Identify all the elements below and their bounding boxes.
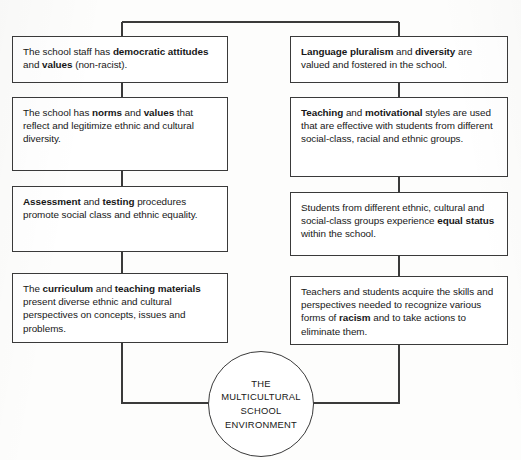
statement-box-left-1: The school staff has democratic attitude… — [12, 36, 228, 83]
center-line-2: MULTICULTURAL — [221, 390, 300, 404]
statement-text: Teachers and students acquire the skills… — [301, 286, 493, 337]
diagram-canvas: The school staff has democratic attitude… — [0, 0, 521, 460]
statement-box-right-4: Teachers and students acquire the skills… — [290, 276, 508, 345]
statement-box-right-1: Language pluralism and diversity are val… — [290, 36, 508, 83]
statement-box-right-3: Students from different ethnic, cultural… — [290, 192, 508, 256]
statement-text: The school staff has democratic attitude… — [23, 46, 208, 70]
statement-text: The curriculum and teaching materials pr… — [23, 283, 201, 334]
statement-text: Assessment and testing procedures promot… — [23, 196, 198, 220]
statement-text: Teaching and motivational styles are use… — [301, 107, 493, 144]
statement-box-left-3: Assessment and testing procedures promot… — [12, 186, 228, 252]
center-circle-node: THE MULTICULTURAL SCHOOL ENVIRONMENT — [208, 351, 314, 457]
statement-box-left-4: The curriculum and teaching materials pr… — [12, 273, 228, 343]
statement-box-right-2: Teaching and motivational styles are use… — [290, 97, 508, 177]
statement-text: Language pluralism and diversity are val… — [301, 46, 472, 70]
center-line-3: SCHOOL — [240, 404, 281, 418]
center-line-4: ENVIRONMENT — [225, 418, 297, 432]
statement-box-left-2: The school has norms and values that ref… — [12, 97, 228, 171]
right-to-circle-line — [308, 345, 399, 403]
left-to-circle-line — [122, 343, 212, 403]
center-line-1: THE — [251, 377, 271, 391]
statement-text: The school has norms and values that ref… — [23, 107, 194, 144]
statement-text: Students from different ethnic, cultural… — [301, 202, 494, 239]
